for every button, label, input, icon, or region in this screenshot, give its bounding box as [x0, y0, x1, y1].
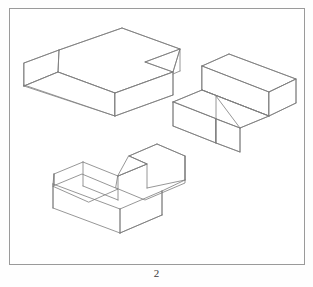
- isometric-drawing-canvas: [10, 9, 306, 266]
- upper-left-l-block: [24, 28, 180, 116]
- right-t-block: [173, 54, 296, 152]
- isometric-figures-group: [24, 28, 296, 233]
- figure-page: 2: [0, 0, 313, 287]
- figure-caption: 2: [0, 266, 313, 280]
- l-block-right-end-face: [173, 49, 180, 72]
- drawing-frame: [9, 8, 305, 265]
- lower-u-block: [53, 144, 185, 233]
